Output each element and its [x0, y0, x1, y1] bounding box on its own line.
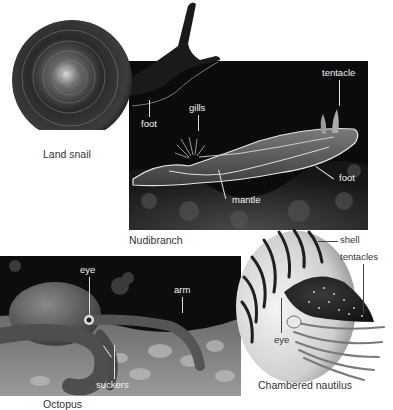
caption-octopus: Octopus [43, 398, 82, 410]
label-octopus-suckers: suckers [96, 379, 129, 390]
label-nudibranch-gills: gills [189, 102, 205, 113]
leader-line [363, 264, 364, 314]
label-nudibranch-mantle: mantle [232, 194, 261, 205]
label-snail-foot: foot [141, 118, 157, 129]
label-nudibranch-tentacle: tentacle [322, 67, 355, 78]
leader-line [149, 100, 150, 117]
label-nudibranch-foot: foot [339, 172, 355, 183]
leader-line [89, 277, 90, 317]
leader-line [281, 298, 282, 333]
caption-chambered-nautilus: Chambered nautilus [258, 379, 352, 391]
leader-line [114, 345, 115, 379]
chambered-nautilus-image [234, 222, 393, 387]
leader-line [339, 80, 340, 106]
leader-line [318, 241, 338, 242]
caption-nudibranch: Nudibranch [129, 234, 183, 246]
caption-land-snail: Land snail [43, 148, 91, 160]
label-nautilus-shell: shell [340, 234, 360, 245]
label-nautilus-eye: eye [274, 334, 289, 345]
octopus-photo [0, 256, 241, 396]
label-octopus-arm: arm [174, 284, 190, 295]
label-octopus-eye: eye [80, 264, 95, 275]
label-nautilus-tentacles: tentacles [340, 251, 378, 262]
leader-line [182, 297, 183, 313]
leader-line [198, 115, 199, 131]
